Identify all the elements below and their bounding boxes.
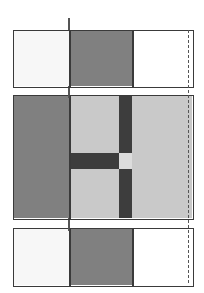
bottom-panel-divider-2 [132,229,134,287]
figure-canvas [0,0,204,293]
top-panel-divider-2 [132,31,134,88]
middle-block-left [14,96,69,218]
middle-panel [13,95,194,220]
middle-bar-vertical-top [119,96,132,153]
bottom-cell-right [132,229,192,285]
top-panel [13,30,194,88]
bottom-cell-left [14,229,69,285]
middle-quadrant-botleft [69,169,119,218]
middle-panel-divider-1 [69,96,71,220]
middle-bar-vertical-bot [119,169,132,218]
top-cell-right [132,31,192,86]
middle-center-square [119,153,132,169]
top-cell-left [14,31,69,86]
top-cell-middle [69,31,132,86]
middle-bar-horizontal [69,153,119,169]
top-panel-divider-1 [69,31,71,88]
middle-block-right [132,96,192,218]
bottom-panel [13,228,194,287]
bottom-panel-divider-1 [69,229,71,287]
right-alignment-guide-overlay [188,30,189,283]
bottom-cell-middle [69,229,132,285]
middle-quadrant-topleft [69,96,119,153]
